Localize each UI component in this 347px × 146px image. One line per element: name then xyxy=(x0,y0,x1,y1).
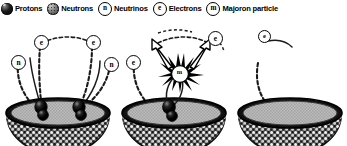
legend-label-electrons: Electrons xyxy=(169,4,202,13)
track-tag-electron-right: e xyxy=(86,35,101,50)
track-tag-electron-right-panel-2: e xyxy=(208,31,223,46)
legend-label-majoron: Majoron particle xyxy=(222,4,277,13)
electron-lead-panel-3 xyxy=(268,40,292,47)
legend-label-protons: Protons xyxy=(15,4,42,13)
legend-item-neutrinos: n Neutrinos xyxy=(98,2,148,16)
circle-n-icon: n xyxy=(98,2,112,16)
legend: Protons Neutrons n Neutrinos e Electrons… xyxy=(0,0,332,17)
panel-3: e xyxy=(228,17,347,146)
panel-2: e e m xyxy=(112,17,236,146)
tag-glyph: m xyxy=(177,69,182,75)
circle-m-glyph: m xyxy=(210,5,216,12)
tag-glyph: e xyxy=(263,33,266,39)
legend-item-majoron: m Majoron particle xyxy=(206,2,277,16)
stippled-gray-sphere-icon xyxy=(47,3,59,15)
filled-black-sphere-icon xyxy=(1,3,13,15)
upper-arc xyxy=(42,37,92,43)
tag-glyph: n xyxy=(16,59,20,66)
circle-e-icon: e xyxy=(153,2,167,16)
tag-glyph: e xyxy=(214,35,217,42)
legend-label-neutrons: Neutrons xyxy=(61,4,93,13)
tag-glyph: e xyxy=(132,59,135,66)
nucleus-bowl-1 xyxy=(6,98,110,146)
tag-glyph: e xyxy=(40,39,43,46)
majoron-burst-label: m xyxy=(174,67,185,78)
nucleus-bowl-3 xyxy=(238,98,342,146)
tag-glyph: e xyxy=(92,39,95,46)
track-tag-electron-panel-3: e xyxy=(258,30,271,43)
track-tag-electron-left: e xyxy=(34,35,49,50)
upper-arc-panel-2 xyxy=(158,37,208,43)
legend-label-neutrinos: Neutrinos xyxy=(114,4,148,13)
electron-emission-arrows xyxy=(152,39,210,69)
circle-m-icon: m xyxy=(206,2,220,16)
circle-n-glyph: n xyxy=(103,5,107,12)
legend-item-electrons: e Electrons xyxy=(153,2,202,16)
panel-1: n e e n xyxy=(0,17,120,146)
circle-e-glyph: e xyxy=(158,5,161,12)
legend-item-neutrons: Neutrons xyxy=(47,3,93,15)
legend-item-protons: Protons xyxy=(1,3,42,15)
track-tag-electron-left-panel-2: e xyxy=(126,55,141,70)
track-tag-neutrino-left: n xyxy=(11,55,26,70)
